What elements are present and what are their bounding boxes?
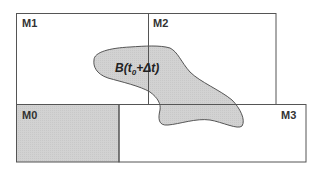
region-m3-label: M3 — [281, 110, 296, 121]
blob-label-tail: +Δt) — [136, 61, 159, 75]
region-m0-label: M0 — [22, 110, 37, 121]
blob-label-main: B(t — [115, 61, 132, 75]
region-m1-label: M1 — [22, 18, 37, 29]
blob-label: B(t0+Δt) — [115, 62, 159, 77]
region-m2-label: M2 — [153, 18, 168, 29]
